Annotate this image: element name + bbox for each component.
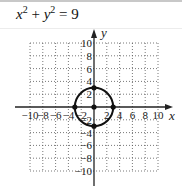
x-tick-label: 10 <box>153 109 165 121</box>
data-point <box>72 104 77 109</box>
y-tick-label: −8 <box>80 152 92 164</box>
y-tick-label: −10 <box>75 165 93 177</box>
y-tick-label: −6 <box>80 139 92 151</box>
data-point <box>91 124 96 129</box>
y-tick-label: 8 <box>87 50 93 62</box>
x-tick-label: 8 <box>142 109 148 121</box>
x-axis-label: x <box>168 108 175 123</box>
data-point <box>91 85 96 90</box>
x-tick-label: −6 <box>50 109 62 121</box>
y-axis-label: y <box>99 25 107 40</box>
data-point <box>91 104 96 109</box>
x-tick-label: 6 <box>130 109 136 121</box>
x-tick-label: −8 <box>37 109 49 121</box>
x-tick-label: 4 <box>117 109 123 121</box>
graph: xy −10−8−6−4−2246810108642−2−4−6−8−10 <box>0 0 182 196</box>
data-point <box>111 104 116 109</box>
y-tick-label: 6 <box>87 63 93 75</box>
y-tick-label: −4 <box>80 127 92 139</box>
x-tick-label: −4 <box>63 109 75 121</box>
y-tick-label: 10 <box>81 37 93 49</box>
y-tick-label: 4 <box>87 75 93 87</box>
